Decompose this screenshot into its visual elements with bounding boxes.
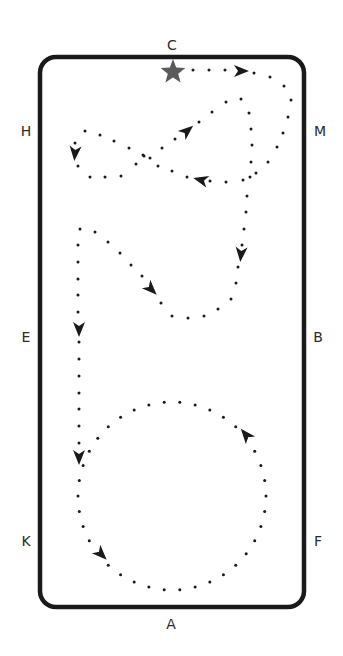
circle-dot [107,425,110,428]
circle-dot [253,450,256,453]
path-dot [77,278,80,281]
path-dot [246,195,249,198]
dressage-arena-diagram [0,0,343,656]
circle-dot [245,552,248,555]
circle-dot [82,525,85,528]
path-dot [255,172,258,175]
path-dot [287,116,290,119]
path-dots [74,69,293,445]
circle-dot [222,573,225,576]
path-dot [78,392,81,395]
path-dot [230,298,233,301]
path-dot [84,130,87,133]
path-dot [243,228,246,231]
circle-dot [259,525,262,528]
circle-dot [133,581,136,584]
path-dot [120,175,123,178]
path-dot [248,112,251,115]
path-dot [94,231,97,234]
path-dot [107,241,110,244]
path-dot [113,140,116,143]
path-dot [99,134,102,137]
direction-arrows [68,65,255,564]
path-dot [224,69,227,72]
circle-dot [78,479,81,482]
direction-arrow-icon [234,65,249,77]
direction-arrow-icon [73,450,85,465]
path-dot [160,302,163,305]
path-dot [249,176,252,179]
circle-dot [208,581,211,584]
path-dot [187,317,190,320]
path-dot [225,181,228,184]
path-dot [171,315,174,318]
path-dot [171,170,174,173]
circle-dot [208,408,211,411]
path-dot [130,264,133,267]
path-dot [78,341,81,344]
path-dot [225,101,228,104]
circle-dot [259,464,262,467]
path-dot [78,375,81,378]
direction-arrow-icon [234,247,247,263]
path-dot [217,308,220,311]
circle-dot [234,425,237,428]
circle-dot [194,403,197,406]
path-dot [253,72,256,75]
path-dot [74,142,77,145]
path-dot [79,228,82,231]
circle-dot [163,401,166,404]
circle-dot [222,416,225,419]
circle-dot [263,479,266,482]
path-dot [267,161,270,164]
path-dot [283,85,286,88]
path-dot [78,358,81,361]
circle-dot [119,573,122,576]
arena-letter-C: C [167,38,177,52]
circle-dot [178,401,181,404]
circle-dot [88,450,91,453]
circle-dot [147,586,150,589]
path-dot [245,211,248,214]
path-dot [141,275,144,278]
path-dot [251,144,254,147]
path-dot [149,157,152,160]
path-dot [240,98,243,101]
path-dot [77,165,80,168]
direction-arrow-icon [73,322,85,337]
circle-dot [163,588,166,591]
direction-arrow-icon [92,545,111,564]
path-dot [250,161,253,164]
circle-dot [178,588,181,591]
arena-letter-H: H [21,124,32,138]
arena-letter-B: B [313,330,323,344]
path-dot [269,76,272,79]
path-dot [242,179,245,182]
start-star-icon [161,59,186,83]
path-dot [237,266,240,269]
circle-dot [107,564,110,567]
path-dot [78,425,81,428]
circle-dot [119,416,122,419]
circle-dot [147,403,150,406]
direction-arrow-icon [236,425,255,444]
path-dot [128,147,131,150]
path-dot [198,121,201,124]
path-dot [192,69,195,72]
path-dot [119,252,122,255]
circle-dot [78,510,81,513]
direction-arrow-icon [68,146,81,162]
circle-dot [265,495,268,498]
path-dot [211,111,214,114]
circle-path-dots [77,401,268,591]
path-dot [77,244,80,247]
path-dot [209,180,212,183]
path-dot [203,315,206,318]
path-dot [282,132,285,135]
direction-arrow-icon [192,172,210,187]
path-dot [89,176,92,179]
direction-arrow-icon [142,280,161,299]
path-dot [77,261,80,264]
direction-arrow-icon [178,121,197,140]
circle-dot [253,539,256,542]
